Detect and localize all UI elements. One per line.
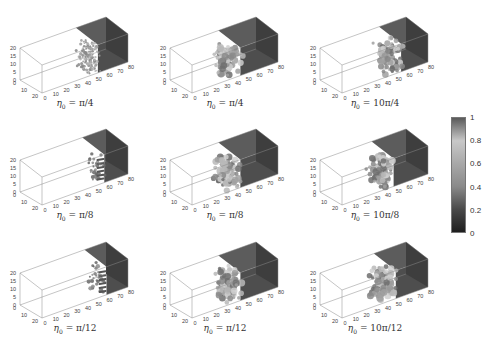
caption-value: = π/12 (213, 323, 247, 333)
subplot-caption: η0 = π/8 (0, 210, 150, 222)
x-tick-label: 30 (224, 83, 230, 89)
x-tick-label: 40 (85, 80, 91, 86)
colorbar-tick-label: 0.4 (470, 183, 481, 192)
x-tick-label: 80 (428, 176, 434, 182)
z-tick-label: 5 (13, 69, 16, 75)
x-tick-label: 60 (406, 184, 412, 190)
z-tick-label: 15 (160, 165, 166, 171)
z-tick-label: 5 (13, 181, 16, 187)
volume-plot: 051015200102001020304050607080 (0, 225, 150, 325)
box-edge (42, 174, 128, 205)
box-edge (20, 48, 42, 65)
x-tick-label: 50 (246, 76, 252, 82)
x-tick-label: 10 (203, 203, 209, 209)
z-tick-label: 5 (163, 294, 166, 300)
y-tick-label: 0 (163, 192, 166, 198)
subplot-caption: η0 = π/12 (0, 323, 150, 335)
z-tick-label: 5 (13, 294, 16, 300)
z-tick-label: 20 (310, 270, 316, 276)
z-tick-label: 5 (163, 69, 166, 75)
x-tick-label: 30 (374, 83, 380, 89)
x-tick-label: 10 (53, 316, 59, 322)
x-tick-label: 70 (117, 68, 123, 74)
x-tick-label: 80 (428, 289, 434, 295)
box-edge (320, 273, 342, 290)
x-tick-label: 30 (74, 195, 80, 201)
box-edge (20, 49, 106, 80)
z-tick-label: 15 (10, 278, 16, 284)
x-tick-label: 10 (203, 91, 209, 97)
x-tick-label: 80 (128, 64, 134, 70)
x-tick-label: 70 (117, 180, 123, 186)
x-tick-label: 50 (396, 301, 402, 307)
x-tick-label: 20 (363, 87, 369, 93)
z-tick-label: 15 (310, 278, 316, 284)
x-tick-label: 50 (96, 301, 102, 307)
colorbar-tick-label: 0.8 (470, 136, 481, 145)
y-tick-label: 0 (313, 305, 316, 311)
x-tick-label: 50 (396, 76, 402, 82)
z-tick-label: 15 (160, 278, 166, 284)
x-tick-label: 50 (396, 188, 402, 194)
volume-plot: 051015200102001020304050607080 (150, 112, 300, 212)
z-tick-label: 20 (160, 270, 166, 276)
x-tick-label: 10 (353, 91, 359, 97)
x-tick-label: 10 (53, 203, 59, 209)
x-tick-label: 50 (246, 301, 252, 307)
y-tick-label: 10 (21, 199, 27, 205)
box-edge (20, 273, 42, 290)
y-tick-label: 10 (171, 312, 177, 318)
x-tick-label: 80 (128, 289, 134, 295)
z-tick-label: 10 (10, 286, 16, 292)
x-tick-label: 70 (417, 68, 423, 74)
box-edge (320, 48, 342, 65)
caption-value: = π/4 (66, 98, 94, 108)
x-tick-label: 30 (374, 195, 380, 201)
x-tick-label: 10 (353, 316, 359, 322)
z-tick-label: 5 (313, 181, 316, 187)
x-tick-label: 70 (417, 293, 423, 299)
x-tick-label: 60 (406, 72, 412, 78)
z-tick-label: 5 (313, 69, 316, 75)
x-tick-label: 70 (267, 68, 273, 74)
subplot-2-1: 051015200102001020304050607080η0 = π/12 (150, 225, 300, 337)
y-tick-label: 0 (163, 305, 166, 311)
y-tick-label: 0 (313, 80, 316, 86)
volume-plot: 051015200102001020304050607080 (150, 225, 300, 325)
volume-plot: 051015200102001020304050607080 (150, 0, 300, 100)
y-tick-label: 0 (13, 305, 16, 311)
x-tick-label: 80 (278, 64, 284, 70)
caption-value: = π/8 (66, 210, 94, 220)
z-tick-label: 10 (310, 61, 316, 67)
x-tick-label: 10 (53, 91, 59, 97)
subplot-0-0: 051015200102001020304050607080η0 = π/4 (0, 0, 150, 112)
y-tick-label: 10 (21, 87, 27, 93)
subplot-1-2: 051015200102001020304050607080η0 = 10π/8 (300, 112, 450, 224)
z-tick-label: 10 (160, 173, 166, 179)
x-tick-label: 50 (246, 188, 252, 194)
box-edge (20, 160, 42, 177)
x-tick-label: 40 (85, 305, 91, 311)
x-tick-label: 40 (235, 80, 241, 86)
x-tick-label: 70 (267, 293, 273, 299)
z-tick-label: 20 (160, 45, 166, 51)
x-tick-label: 30 (224, 195, 230, 201)
subplot-caption: η0 = 10π/8 (300, 210, 450, 222)
volume-plot: 051015200102001020304050607080 (300, 0, 450, 100)
y-tick-label: 10 (321, 199, 327, 205)
z-tick-label: 15 (160, 53, 166, 59)
subplot-caption: η0 = π/8 (150, 210, 300, 222)
z-tick-label: 10 (310, 173, 316, 179)
z-tick-label: 10 (310, 286, 316, 292)
colorbar (451, 117, 466, 233)
subplot-1-1: 051015200102001020304050607080η0 = π/8 (150, 112, 300, 224)
x-tick-label: 30 (374, 308, 380, 314)
subplot-caption: η0 = π/4 (150, 98, 300, 110)
subplot-caption: η0 = π/12 (150, 323, 300, 335)
subplot-2-2: 051015200102001020304050607080η0 = 10π/1… (300, 225, 450, 337)
volume-plot: 051015200102001020304050607080 (0, 112, 150, 212)
box-edge (170, 273, 192, 290)
x-tick-label: 30 (74, 83, 80, 89)
caption-value: = π/12 (63, 323, 97, 333)
y-tick-label: 0 (13, 192, 16, 198)
